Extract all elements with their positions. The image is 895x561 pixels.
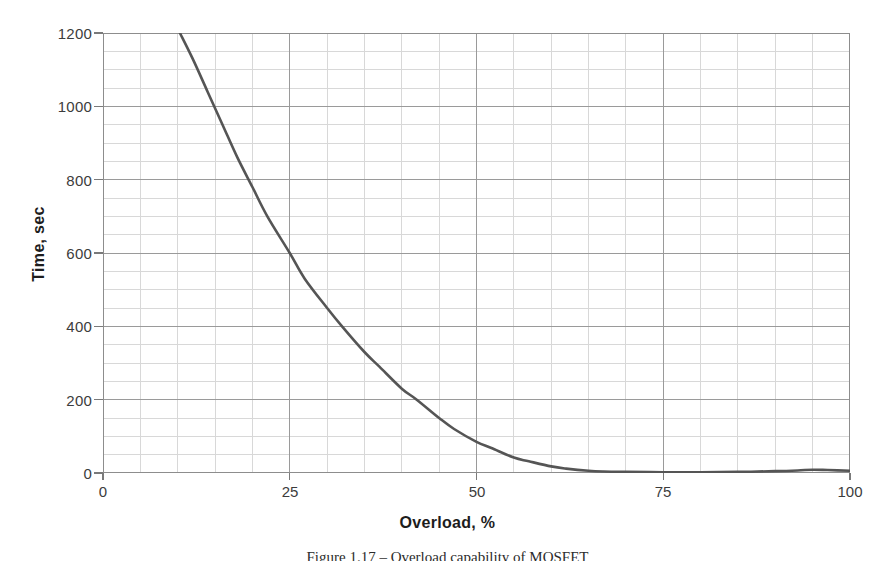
y-tick-label-400: 400 [66,319,92,334]
chart-figure: 1200 1000 800 600 400 200 0 Time, sec [0,0,895,561]
x-tick-label-25: 25 [260,484,320,499]
x-tick-label-100: 100 [820,484,880,499]
y-tick-label-1200: 1200 [58,26,92,41]
plot-area [103,33,850,473]
x-tick-label-0: 0 [73,484,133,499]
figure-caption: Figure 1.17 – Overload capability of MOS… [0,549,895,561]
x-axis-title: Overload, % [0,514,895,532]
y-tick-label-800: 800 [66,173,92,188]
x-tick-label-50: 50 [447,484,507,499]
y-axis-title: Time, sec [30,179,48,309]
plot-svg [103,33,850,473]
figure-page: 1200 1000 800 600 400 200 0 Time, sec [0,0,895,561]
x-tick-label-75: 75 [633,484,693,499]
y-tick-label-0: 0 [83,466,92,481]
y-tick-label-600: 600 [66,246,92,261]
y-tick-label-200: 200 [66,393,92,408]
y-tick-label-1000: 1000 [58,99,92,114]
